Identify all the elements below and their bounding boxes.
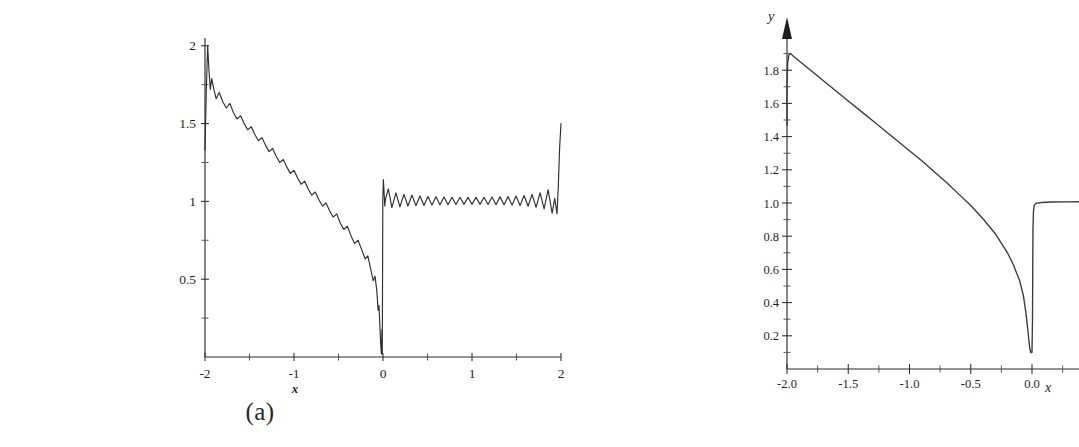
y-axis-tick-label: 0.6 <box>763 263 779 277</box>
x-axis-tick-label: 1 <box>469 366 476 381</box>
x-axis-tick-label: -1.5 <box>838 377 858 391</box>
y-axis-name-label: y <box>766 9 775 24</box>
panel-a: -2-10120.511.52x (a) <box>0 0 520 447</box>
y-axis-tick-label: 1 <box>189 194 196 209</box>
panel-b: -2.0-1.5-1.0-0.50.00.51.01.52.00.20.40.6… <box>520 0 1079 447</box>
x-axis-tick-label: -1.0 <box>900 377 920 391</box>
y-axis-arrowhead-icon <box>782 17 792 39</box>
x-axis-name-label: x <box>291 381 299 396</box>
y-axis-tick-label: 0.8 <box>763 230 779 244</box>
data-curve <box>787 54 1079 353</box>
panel-b-plot: -2.0-1.5-1.0-0.50.00.51.01.52.00.20.40.6… <box>520 0 1079 400</box>
panel-a-caption: (a) <box>0 398 520 426</box>
data-curve <box>205 46 561 354</box>
y-axis-tick-label: 1.4 <box>763 130 779 144</box>
y-axis-tick-label: 0.4 <box>763 296 779 310</box>
x-axis-tick-label: -1 <box>288 366 299 381</box>
y-axis-tick-label: 0.5 <box>179 272 196 287</box>
x-axis-name-label: x <box>1044 380 1052 395</box>
x-axis-tick-label: -2 <box>199 366 210 381</box>
y-axis-tick-label: 1.8 <box>763 64 779 78</box>
figure-container: -2-10120.511.52x (a) -2.0-1.5-1.0-0.50.0… <box>0 0 1079 447</box>
y-axis-tick-label: 1.5 <box>179 116 196 131</box>
panel-a-plot: -2-10120.511.52x <box>0 0 520 400</box>
y-axis-tick-label: 1.0 <box>763 197 779 211</box>
x-axis-tick-label: -2.0 <box>777 377 797 391</box>
x-axis-tick-label: 0.0 <box>1024 377 1040 391</box>
y-axis-tick-label: 0.2 <box>763 329 779 343</box>
y-axis-tick-label: 1.2 <box>763 163 779 177</box>
y-axis-tick-label: 1.6 <box>763 97 779 111</box>
y-axis-tick-label: 2 <box>189 38 196 53</box>
x-axis-tick-label: -0.5 <box>961 377 981 391</box>
x-axis-tick-label: 0 <box>380 366 387 381</box>
panel-b-caption: (b) <box>1040 398 1079 426</box>
